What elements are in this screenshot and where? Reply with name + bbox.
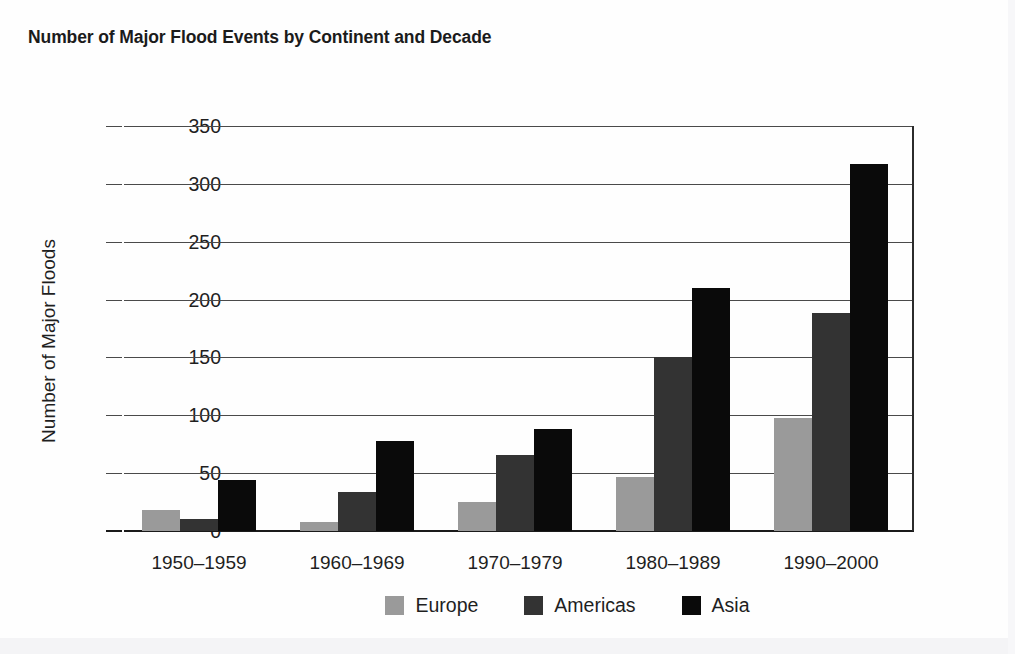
y-axis-label: Number of Major Floods [38, 176, 60, 506]
bar-europe-4 [774, 418, 812, 531]
bar-americas-0 [180, 519, 218, 531]
y-tick-mark-100 [106, 415, 122, 416]
bar-asia-2 [534, 429, 572, 531]
bar-americas-4 [812, 313, 850, 531]
y-tick-mark-150 [106, 357, 122, 358]
scan-edge-bottom [0, 638, 1015, 654]
bar-europe-2 [458, 502, 496, 531]
legend-label: Europe [415, 594, 478, 617]
bar-europe-1 [300, 522, 338, 531]
y-tick-mark-0 [106, 530, 122, 532]
chart-figure: Number of Major Flood Events by Continen… [0, 0, 1015, 654]
bar-group [300, 126, 414, 531]
legend-label: Asia [712, 594, 750, 617]
y-tick-mark-300 [106, 184, 122, 185]
bar-americas-3 [654, 357, 692, 531]
scan-edge-right [1008, 0, 1015, 654]
chart-title: Number of Major Flood Events by Continen… [28, 27, 491, 48]
x-tick-label: 1950–1959 [151, 552, 246, 574]
bar-group [142, 126, 256, 531]
bar-europe-0 [142, 510, 180, 531]
bar-asia-0 [218, 480, 256, 531]
bar-asia-4 [850, 164, 888, 531]
legend-label: Americas [554, 594, 635, 617]
y-tick-mark-350 [106, 126, 122, 127]
bar-group [458, 126, 572, 531]
bar-asia-1 [376, 441, 414, 531]
bar-asia-3 [692, 288, 730, 531]
bar-europe-3 [616, 477, 654, 531]
x-tick-label: 1970–1979 [467, 552, 562, 574]
y-tick-mark-200 [106, 300, 122, 301]
legend-swatch-icon [682, 596, 701, 615]
plot-area [124, 126, 914, 531]
y-tick-mark-50 [106, 473, 122, 474]
bar-group [616, 126, 730, 531]
bar-americas-1 [338, 492, 376, 531]
bar-americas-2 [496, 455, 534, 531]
right-spine [912, 126, 914, 531]
x-tick-label: 1990–2000 [783, 552, 878, 574]
x-tick-label: 1960–1969 [309, 552, 404, 574]
chart-legend: EuropeAmericasAsia [0, 594, 1015, 617]
x-tick-label: 1980–1989 [625, 552, 720, 574]
legend-item-americas[interactable]: Americas [524, 594, 635, 617]
legend-swatch-icon [385, 596, 404, 615]
legend-item-europe[interactable]: Europe [385, 594, 478, 617]
legend-swatch-icon [524, 596, 543, 615]
legend-item-asia[interactable]: Asia [682, 594, 750, 617]
y-tick-mark-250 [106, 242, 122, 243]
bar-group [774, 126, 888, 531]
